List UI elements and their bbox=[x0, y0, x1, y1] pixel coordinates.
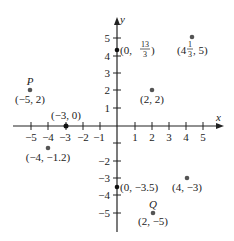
point-label: (2, 2) bbox=[140, 93, 164, 106]
y-tick-label: −4 bbox=[98, 189, 110, 201]
x-tick-label: −1 bbox=[93, 131, 105, 143]
x-axis-arrow-icon bbox=[216, 123, 224, 129]
point-label: (4, −3) bbox=[172, 181, 202, 194]
y-tick-label: 3 bbox=[105, 67, 111, 79]
point-label: (−3, 0) bbox=[51, 109, 81, 122]
point-neg4-neg1-2: (−4, −1.2) bbox=[26, 146, 71, 164]
x-tick-label: 5 bbox=[200, 131, 206, 143]
y-axis-label: y bbox=[119, 13, 125, 25]
point-name: Q bbox=[149, 198, 157, 210]
x-tick-label: 3 bbox=[166, 131, 172, 143]
fraction-numerator: 1 bbox=[188, 40, 192, 49]
y-tick-label: 5 bbox=[105, 32, 111, 44]
point-q: Q (2, −5) bbox=[138, 198, 168, 228]
x-tick-label: −3 bbox=[59, 131, 71, 143]
coordinate-plane: y x −5 −4 −3 −2 −1 1 2 3 4 5 bbox=[0, 0, 234, 241]
point-label: (−4, −1.2) bbox=[26, 151, 71, 164]
x-tick-label: 4 bbox=[183, 131, 189, 143]
x-tick-label: −5 bbox=[25, 131, 37, 143]
point-4-neg3: (4, −3) bbox=[172, 176, 202, 194]
point-label: (2, −5) bbox=[138, 215, 168, 228]
point-label: (0, −3.5) bbox=[120, 181, 159, 194]
point-label-open: (4 bbox=[177, 44, 187, 57]
fraction-numerator: 13 bbox=[141, 40, 149, 49]
point-p: P (−5, 2) bbox=[15, 75, 45, 106]
x-tick-label: −2 bbox=[77, 131, 89, 143]
point-name: P bbox=[26, 75, 34, 87]
point-label-close: ) bbox=[151, 44, 155, 57]
y-tick-label: 2 bbox=[105, 84, 111, 96]
x-axis-label: x bbox=[215, 111, 221, 123]
y-tick-label: −5 bbox=[98, 207, 110, 219]
y-tick-label: 1 bbox=[105, 102, 111, 114]
point-label-open: (0, bbox=[120, 44, 132, 57]
point-4-1-3-5: (4 1 3 , 5) bbox=[177, 35, 208, 59]
point-label-close: , 5) bbox=[193, 44, 208, 57]
x-tick-labels: −5 −4 −3 −2 −1 1 2 3 4 5 bbox=[25, 131, 206, 143]
y-tick-label: 4 bbox=[105, 50, 111, 62]
point-label: (−5, 2) bbox=[15, 93, 45, 106]
y-tick-label: −3 bbox=[98, 172, 110, 184]
fraction-denominator: 3 bbox=[143, 50, 147, 59]
fraction-denominator: 3 bbox=[188, 50, 192, 59]
x-tick-label: −4 bbox=[42, 131, 54, 143]
x-tick-label: 1 bbox=[132, 131, 138, 143]
y-tick-label: −2 bbox=[98, 155, 110, 167]
point-0-neg3-5: (0, −3.5) bbox=[115, 181, 159, 194]
x-tick-label: 2 bbox=[149, 131, 155, 143]
point-2-2: (2, 2) bbox=[140, 88, 164, 106]
